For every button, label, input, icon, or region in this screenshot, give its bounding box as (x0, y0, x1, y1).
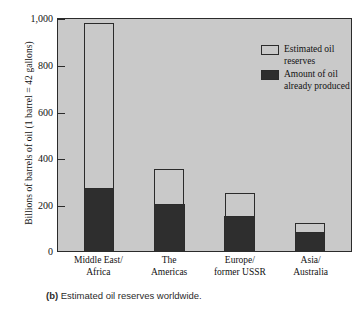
x-label-line1: Middle East/ (63, 255, 134, 267)
legend-swatch-produced-icon (261, 70, 279, 80)
plot-area: 1,000 800 600 400 200 0 (57, 18, 352, 252)
y-tick-label-200: 200 (38, 200, 53, 211)
x-label-asia-australia: Asia/ Australia (275, 255, 346, 278)
bar-slot-europe-former-ussr (217, 19, 263, 251)
legend-label-reserves: Estimated oil reserves (284, 44, 351, 67)
bar-slot-middle-east-africa (76, 19, 122, 251)
legend-label-produced: Amount of oil already produced (284, 69, 351, 92)
x-label-line1: Asia/ (275, 255, 346, 267)
figure-caption: (b) Estimated oil reserves worldwide. (46, 290, 202, 301)
caption-tag: (b) (46, 290, 58, 301)
bar-produced-the-americas (154, 204, 184, 251)
x-label-line2: former USSR (205, 267, 276, 279)
x-label-line1: The (134, 255, 205, 267)
y-tick-label-600: 600 (38, 107, 53, 118)
y-tick-label-0: 0 (48, 246, 53, 257)
x-label-line2: Americas (134, 267, 205, 279)
bar-produced-asia-australia (295, 232, 325, 251)
bar-slot-the-americas (146, 19, 192, 251)
bar-europe-former-ussr[interactable] (225, 193, 255, 252)
legend-swatch-reserves-icon (261, 45, 279, 55)
legend-item-estimated-oil-reserves: Estimated oil reserves (261, 44, 351, 67)
x-label-line2: Africa (63, 267, 134, 279)
bar-asia-australia[interactable] (295, 223, 325, 251)
bar-produced-europe-former-ussr (224, 216, 254, 251)
x-label-the-americas: The Americas (134, 255, 205, 278)
caption-text: Estimated oil reserves worldwide. (61, 290, 202, 301)
bar-middle-east-africa[interactable] (84, 23, 114, 251)
x-label-line1: Europe/ (205, 255, 276, 267)
y-tick-label-800: 800 (38, 60, 53, 71)
x-axis-labels: Middle East/ Africa The Americas Europe/… (57, 255, 352, 278)
legend-item-amount-produced: Amount of oil already produced (261, 69, 351, 92)
y-axis-title: Billions of barrels of oil (1 barrel = 4… (24, 8, 34, 258)
x-label-europe-former-ussr: Europe/ former USSR (205, 255, 276, 278)
bar-produced-middle-east-africa (84, 188, 114, 251)
bar-the-americas[interactable] (154, 169, 184, 251)
y-tick-label-400: 400 (38, 153, 53, 164)
legend: Estimated oil reserves Amount of oil alr… (261, 44, 351, 94)
x-label-line2: Australia (275, 267, 346, 279)
y-tick-label-1000: 1,000 (31, 13, 54, 24)
figure: Billions of barrels of oil (1 barrel = 4… (0, 0, 362, 309)
x-label-middle-east-africa: Middle East/ Africa (63, 255, 134, 278)
